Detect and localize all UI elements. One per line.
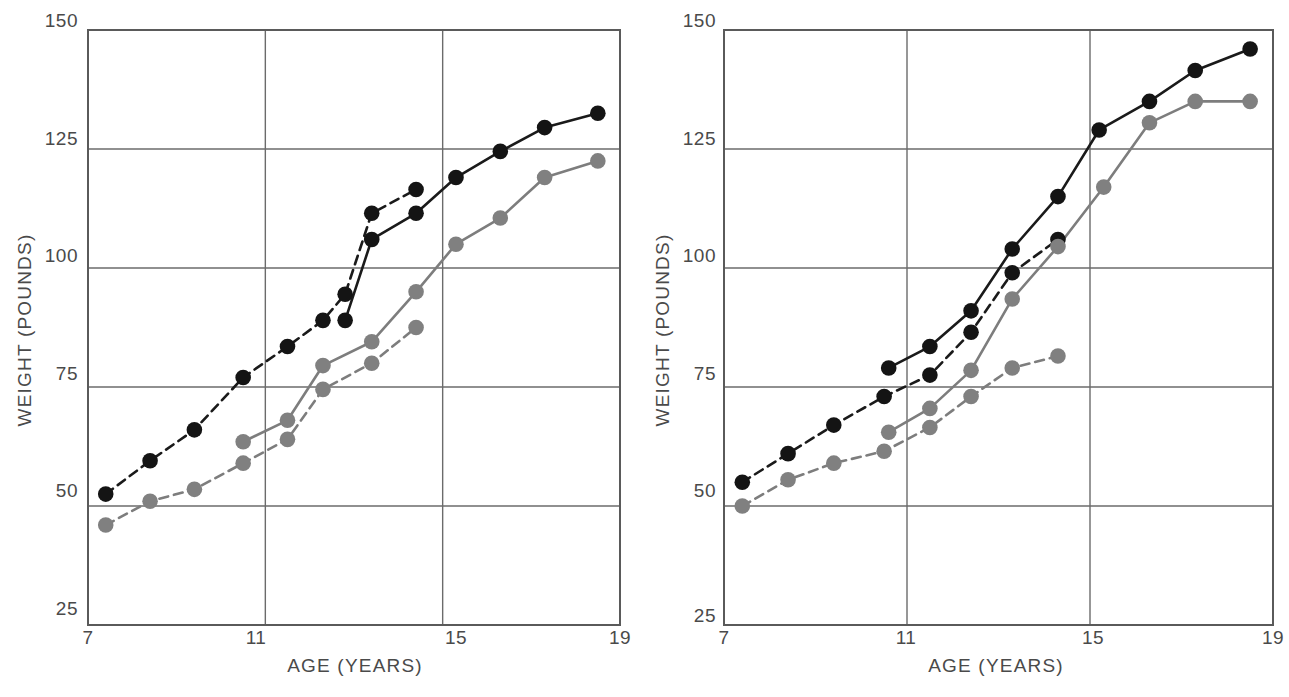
weight-vs-age-figure: 150 125 100 75 50 25 7 11 15 19 AGE (YEA… bbox=[0, 0, 1289, 697]
data-point bbox=[408, 205, 424, 221]
data-point bbox=[590, 153, 606, 169]
chart-svg-left: 150 125 100 75 50 25 7 11 15 19 AGE (YEA… bbox=[0, 0, 645, 697]
data-point bbox=[408, 284, 424, 300]
data-point bbox=[364, 355, 380, 371]
data-point bbox=[826, 417, 842, 433]
data-point bbox=[493, 144, 509, 160]
y-tick-label: 125 bbox=[45, 128, 78, 149]
y-tick-label: 150 bbox=[683, 10, 716, 31]
y-tick-label: 75 bbox=[694, 363, 716, 384]
series-line-gray-solid bbox=[889, 101, 1250, 432]
x-tick-label: 11 bbox=[246, 627, 267, 648]
data-point bbox=[963, 389, 979, 405]
data-point bbox=[922, 420, 938, 436]
data-point bbox=[315, 358, 331, 374]
plot-frame bbox=[88, 30, 620, 625]
data-point bbox=[1004, 360, 1020, 376]
y-tick-label: 50 bbox=[56, 480, 78, 501]
data-point bbox=[337, 313, 353, 329]
data-point bbox=[364, 334, 380, 350]
x-tick-label: 19 bbox=[609, 627, 631, 648]
data-point bbox=[408, 182, 424, 198]
x-tick-labels-left: 7 11 15 19 bbox=[82, 627, 631, 648]
data-point bbox=[780, 446, 796, 462]
data-point bbox=[876, 443, 892, 459]
data-point bbox=[448, 236, 464, 252]
data-point bbox=[876, 389, 892, 405]
data-point bbox=[1187, 63, 1203, 79]
data-point bbox=[408, 320, 424, 336]
y-tick-label: 150 bbox=[45, 10, 78, 31]
plot-area-left bbox=[88, 30, 620, 625]
data-point bbox=[142, 453, 158, 469]
x-tick-label: 11 bbox=[896, 627, 917, 648]
x-tick-label: 19 bbox=[1262, 627, 1284, 648]
data-point bbox=[337, 286, 353, 302]
plot-frame bbox=[724, 30, 1273, 625]
plot-area-right bbox=[724, 30, 1273, 625]
x-axis-title: AGE (YEARS) bbox=[928, 655, 1064, 676]
data-point bbox=[881, 424, 897, 440]
data-point bbox=[963, 324, 979, 340]
data-point bbox=[963, 303, 979, 319]
y-axis-title: WEIGHT (POUNDS) bbox=[14, 234, 35, 427]
data-point bbox=[493, 210, 509, 226]
data-point bbox=[142, 493, 158, 509]
data-point bbox=[963, 363, 979, 379]
chart-panel-left: 150 125 100 75 50 25 7 11 15 19 AGE (YEA… bbox=[0, 0, 645, 697]
y-tick-labels-left: 150 125 100 75 50 25 bbox=[45, 10, 78, 619]
data-point bbox=[98, 486, 114, 502]
data-point bbox=[1004, 291, 1020, 307]
data-point bbox=[1242, 94, 1258, 110]
y-axis-title: WEIGHT (POUNDS) bbox=[652, 234, 673, 427]
y-tick-label: 25 bbox=[694, 605, 716, 626]
data-point bbox=[780, 472, 796, 488]
data-point bbox=[235, 455, 251, 471]
x-tick-label: 15 bbox=[1082, 627, 1104, 648]
x-tick-label: 15 bbox=[445, 627, 467, 648]
x-tick-label: 7 bbox=[718, 627, 729, 648]
data-point bbox=[1242, 41, 1258, 57]
x-tick-labels-right: 7 11 15 19 bbox=[718, 627, 1284, 648]
data-point bbox=[235, 370, 251, 386]
data-point bbox=[922, 401, 938, 417]
data-point bbox=[280, 339, 296, 355]
data-point bbox=[1004, 265, 1020, 281]
data-point bbox=[187, 422, 203, 438]
data-point bbox=[364, 205, 380, 221]
data-point bbox=[280, 432, 296, 448]
data-point bbox=[448, 170, 464, 186]
y-tick-label: 125 bbox=[683, 128, 716, 149]
series-line-gray-solid bbox=[243, 161, 598, 442]
x-tick-label: 7 bbox=[82, 627, 93, 648]
data-point bbox=[280, 413, 296, 429]
y-tick-label: 100 bbox=[683, 245, 716, 266]
data-point bbox=[537, 120, 553, 136]
data-point bbox=[1050, 239, 1066, 255]
x-axis-title: AGE (YEARS) bbox=[287, 655, 423, 676]
data-point bbox=[98, 517, 114, 533]
data-point bbox=[1050, 348, 1066, 364]
y-tick-label: 25 bbox=[56, 598, 78, 619]
data-point bbox=[1050, 189, 1066, 205]
chart-panel-right: 150 125 100 75 50 25 7 11 15 19 AGE (YEA… bbox=[644, 0, 1289, 697]
data-point bbox=[735, 498, 751, 514]
data-point bbox=[590, 106, 606, 122]
data-point bbox=[1142, 94, 1158, 110]
y-tick-label: 100 bbox=[45, 245, 78, 266]
data-point bbox=[735, 474, 751, 490]
chart-svg-right: 150 125 100 75 50 25 7 11 15 19 AGE (YEA… bbox=[644, 0, 1289, 697]
series-line-dark-solid bbox=[345, 113, 598, 320]
y-tick-label: 50 bbox=[694, 480, 716, 501]
data-point bbox=[235, 434, 251, 450]
data-point bbox=[364, 232, 380, 248]
data-point bbox=[315, 382, 331, 398]
data-point bbox=[922, 339, 938, 355]
y-tick-label: 75 bbox=[56, 363, 78, 384]
data-point bbox=[537, 170, 553, 186]
data-point bbox=[1187, 94, 1203, 110]
data-point bbox=[922, 367, 938, 383]
data-point bbox=[187, 482, 203, 498]
data-point bbox=[1142, 115, 1158, 131]
data-point bbox=[1096, 179, 1112, 195]
